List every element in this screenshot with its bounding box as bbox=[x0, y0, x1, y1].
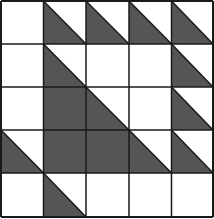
grid-cell-r2-c1 bbox=[44, 87, 87, 130]
quilt-grid-diagram bbox=[0, 0, 214, 219]
grid-cell-r3-c1 bbox=[44, 130, 87, 173]
filled-square bbox=[44, 87, 87, 130]
grid-cell-r0-c1 bbox=[44, 1, 87, 44]
grid-cell-r0-c4 bbox=[172, 1, 214, 44]
grid-cell-r2-c4 bbox=[172, 87, 214, 130]
grid-cell-r4-c1 bbox=[44, 173, 87, 217]
grid-cell-r1-c4 bbox=[172, 44, 214, 87]
filled-square bbox=[86, 130, 129, 173]
grid-cell-r1-c1 bbox=[44, 44, 87, 87]
grid-cell-r0-c3 bbox=[129, 1, 172, 44]
grid-cell-r3-c2 bbox=[86, 130, 129, 173]
filled-square bbox=[44, 130, 87, 173]
grid-cell-r3-c0 bbox=[1, 130, 44, 173]
grid-canvas bbox=[0, 0, 214, 219]
grid-cell-r3-c4 bbox=[172, 130, 214, 173]
grid-cell-r2-c2 bbox=[86, 87, 129, 130]
grid-cell-r0-c2 bbox=[86, 1, 129, 44]
grid-cell-r3-c3 bbox=[129, 130, 172, 173]
